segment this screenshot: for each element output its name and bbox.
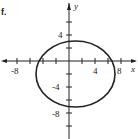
y-tick-label: 4 xyxy=(58,30,63,40)
part-label: f. xyxy=(1,7,7,17)
x-axis-left-arrow-icon xyxy=(1,59,7,63)
x-tick-label: -8 xyxy=(11,66,19,76)
y-tick-label: -4 xyxy=(52,82,60,92)
x-tick-label: 4 xyxy=(93,66,98,76)
ellipse-curve xyxy=(36,41,115,107)
graph: f. -8 4 8 x 4 -4 -8 y xyxy=(0,0,138,139)
y-tick-label: -8 xyxy=(52,109,60,119)
y-axis-label: y xyxy=(73,1,78,11)
x-tick-label: 8 xyxy=(117,66,122,76)
x-axis-label: x xyxy=(130,64,135,74)
y-axis-up-arrow-icon xyxy=(67,3,71,10)
x-axis-right-arrow-icon xyxy=(131,59,137,63)
